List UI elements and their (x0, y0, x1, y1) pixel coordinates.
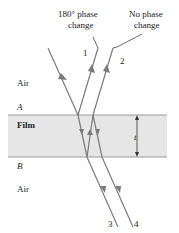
caption-180-line2: change (68, 20, 93, 30)
ray-1 (78, 48, 98, 115)
leader-line-2 (113, 34, 142, 48)
diagram-svg: 180° phase change No phase change 1 2 3 … (0, 0, 179, 233)
ray-3-label: 3 (108, 219, 113, 229)
ray-2 (93, 48, 113, 115)
caption-no-phase-line1: No phase (129, 9, 163, 19)
caption-no-phase-line2: change (134, 20, 159, 30)
leader-line-1 (93, 37, 98, 48)
interface-a-label: A (16, 102, 23, 112)
ray-3 (87, 157, 118, 227)
air-top-label: Air (17, 78, 29, 88)
ray-1-arrow (88, 64, 95, 73)
air-bottom-label: Air (17, 184, 29, 194)
ray-2-label: 2 (120, 56, 125, 66)
ray-4-label: 4 (134, 219, 139, 229)
thin-film-interference-diagram: 180° phase change No phase change 1 2 3 … (0, 0, 179, 233)
ray-2-arrow (103, 64, 110, 73)
film-label: Film (17, 120, 35, 130)
interface-b-label: B (17, 161, 23, 171)
ray-4 (102, 157, 133, 227)
caption-180-line1: 180° phase (58, 9, 98, 19)
incident-ray (48, 48, 78, 115)
ray-1-label: 1 (83, 48, 88, 58)
